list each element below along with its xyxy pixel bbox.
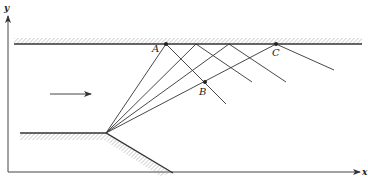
y-axis-label: y [3, 3, 10, 13]
point-b-label: B [198, 86, 206, 97]
fan-wave-1 [106, 44, 166, 133]
point-a-label: A [151, 43, 159, 54]
point-b-marker [203, 80, 207, 84]
lower-wall-hatching [20, 133, 173, 176]
upper-wall-hatching [14, 38, 362, 44]
reflected-waves [166, 44, 334, 104]
expansion-fan-diagram: y x A B C [0, 0, 368, 185]
point-a-marker [164, 42, 168, 46]
reflected-wave-2 [196, 44, 252, 82]
reflected-wave-4 [276, 44, 334, 70]
expansion-fan [106, 44, 276, 133]
lower-wall [20, 133, 173, 176]
x-axis-label: x [361, 167, 368, 177]
point-c-label: C [272, 47, 280, 58]
point-c-marker [274, 42, 278, 46]
fan-wave-4 [106, 44, 276, 133]
axes: y x [3, 3, 368, 177]
upper-wall [14, 38, 362, 44]
fan-wave-2 [106, 44, 196, 133]
